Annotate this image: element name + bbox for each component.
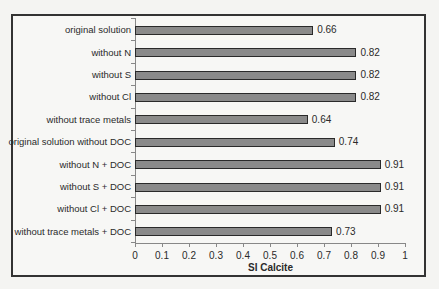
- x-tick: [378, 243, 379, 247]
- y-tick: [131, 18, 135, 19]
- x-tick-label: 0.7: [309, 250, 339, 261]
- bar: [135, 26, 313, 35]
- x-tick: [297, 243, 298, 247]
- value-label: 0.73: [336, 226, 355, 238]
- category-label: without N: [91, 47, 131, 59]
- value-label: 0.82: [360, 91, 379, 103]
- x-tick: [135, 243, 136, 247]
- category-label: without Cl + DOC: [57, 203, 131, 215]
- value-label: 0.91: [385, 159, 404, 171]
- category-label: without S: [92, 69, 131, 81]
- x-tick: [162, 243, 163, 247]
- x-tick-label: 0: [120, 250, 150, 261]
- value-label: 0.82: [360, 69, 379, 81]
- x-tick: [351, 243, 352, 247]
- value-label: 0.74: [339, 136, 358, 148]
- y-tick: [131, 175, 135, 176]
- bar: [135, 71, 356, 80]
- category-label: without Cl: [89, 91, 131, 103]
- y-tick: [131, 130, 135, 131]
- bar: [135, 115, 308, 124]
- bar: [135, 205, 381, 214]
- category-label: without trace metals: [47, 114, 131, 126]
- x-tick-label: 0.1: [147, 250, 177, 261]
- bar: [135, 227, 332, 236]
- x-tick: [324, 243, 325, 247]
- x-tick-label: 0.5: [255, 250, 285, 261]
- value-label: 0.91: [385, 203, 404, 215]
- x-tick: [270, 243, 271, 247]
- bar: [135, 48, 356, 57]
- y-tick: [131, 197, 135, 198]
- y-tick: [131, 63, 135, 64]
- x-tick: [189, 243, 190, 247]
- x-tick-label: 0.2: [174, 250, 204, 261]
- x-tick: [216, 243, 217, 247]
- x-tick-label: 0.6: [282, 250, 312, 261]
- category-label: without trace metals + DOC: [15, 226, 131, 238]
- category-label: original solution without DOC: [8, 136, 131, 148]
- x-tick-label: 0.8: [336, 250, 366, 261]
- x-tick-label: 0.4: [228, 250, 258, 261]
- value-label: 0.91: [385, 181, 404, 193]
- bar: [135, 138, 335, 147]
- x-tick: [405, 243, 406, 247]
- value-label: 0.82: [360, 47, 379, 59]
- x-tick-label: 0.9: [363, 250, 393, 261]
- value-label: 0.64: [312, 114, 331, 126]
- bar: [135, 183, 381, 192]
- y-tick: [131, 85, 135, 86]
- y-tick: [131, 40, 135, 41]
- category-label: original solution: [65, 24, 131, 36]
- bar: [135, 93, 356, 102]
- category-label: without S + DOC: [60, 181, 131, 193]
- value-label: 0.66: [317, 24, 336, 36]
- x-tick: [243, 243, 244, 247]
- y-tick: [131, 108, 135, 109]
- x-tick-label: 0.3: [201, 250, 231, 261]
- y-tick: [131, 152, 135, 153]
- bar: [135, 160, 381, 169]
- x-axis-title: SI Calcite: [135, 262, 406, 273]
- category-label: without N + DOC: [59, 159, 131, 171]
- x-tick-label: 1: [390, 250, 420, 261]
- y-tick: [131, 220, 135, 221]
